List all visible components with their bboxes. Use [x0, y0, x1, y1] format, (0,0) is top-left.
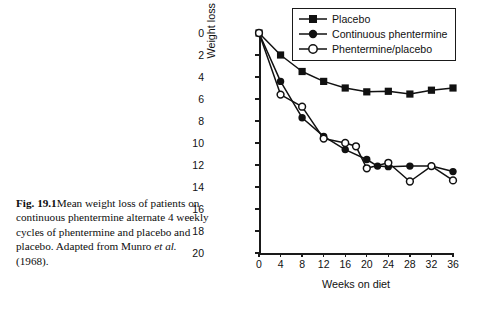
x-tick-label: 24	[376, 259, 400, 270]
data-point-filled-square	[299, 68, 306, 75]
legend-label-phentermine-placebo: Phentermine/placebo	[328, 44, 432, 55]
data-point-filled-square	[406, 90, 413, 97]
x-tick-mark	[258, 253, 259, 257]
plot-area: 0246810121416182004812162024283236	[259, 33, 453, 253]
data-point-open-circle	[256, 30, 263, 37]
data-point-open-circle	[320, 135, 327, 142]
y-tick-label: 8	[186, 116, 204, 127]
data-point-open-circle	[406, 178, 413, 185]
x-tick-mark	[345, 253, 346, 257]
y-tick-label: 6	[186, 94, 204, 105]
y-tick-label: 16	[186, 204, 204, 215]
figure-19-1: Fig. 19.1Mean weight loss of patients on…	[0, 0, 488, 309]
data-point-filled-square	[363, 88, 370, 95]
y-axis-title: Weight loss (kg)	[205, 0, 217, 78]
data-point-open-circle	[277, 91, 284, 98]
figure-number: Fig. 19.1	[16, 197, 57, 209]
legend-item-continuous-phentermine: Continuous phentermine	[298, 27, 447, 41]
y-tick-label: 10	[186, 138, 204, 149]
data-point-open-circle	[363, 165, 370, 172]
data-series-group	[259, 33, 453, 253]
x-tick-mark	[301, 253, 302, 257]
data-point-filled-circle	[406, 162, 413, 169]
x-tick-label: 0	[247, 259, 271, 270]
filled-square-marker-icon	[298, 12, 328, 26]
y-tick-label: 2	[186, 50, 204, 61]
y-tick-label: 14	[186, 182, 204, 193]
x-axis-title: Weeks on diet	[259, 278, 453, 290]
legend-item-phentermine-placebo: Phentermine/placebo	[298, 42, 447, 56]
x-tick-label: 32	[419, 259, 443, 270]
open-circle-marker-icon	[298, 42, 328, 56]
legend-label-placebo: Placebo	[328, 14, 370, 25]
data-point-open-circle	[385, 159, 392, 166]
data-point-filled-square	[449, 84, 456, 91]
x-tick-mark	[323, 253, 324, 257]
y-tick-label: 18	[186, 226, 204, 237]
data-point-filled-square	[277, 51, 284, 58]
y-tick-label: 12	[186, 160, 204, 171]
x-tick-label: 20	[355, 259, 379, 270]
x-tick-mark	[452, 253, 453, 257]
data-point-open-circle	[353, 143, 360, 150]
caption-et-al: et al.	[154, 240, 176, 252]
chart-legend: Placebo Continuous phentermine Phentermi…	[292, 8, 456, 61]
data-point-open-circle	[342, 140, 349, 147]
data-point-filled-circle	[449, 168, 456, 175]
x-tick-label: 36	[441, 259, 465, 270]
data-point-filled-square	[342, 84, 349, 91]
filled-circle-marker-icon	[298, 27, 328, 41]
y-tick-label: 0	[186, 28, 204, 39]
y-tick-label: 20	[186, 248, 204, 259]
x-tick-label: 8	[290, 259, 314, 270]
y-tick-label: 4	[186, 72, 204, 83]
data-point-filled-circle	[298, 114, 305, 121]
x-tick-label: 28	[398, 259, 422, 270]
data-point-filled-square	[385, 88, 392, 95]
data-point-filled-circle	[277, 78, 284, 85]
data-point-open-circle	[299, 103, 306, 110]
data-point-filled-square	[320, 78, 327, 85]
x-tick-label: 16	[333, 259, 357, 270]
data-point-open-circle	[450, 177, 457, 184]
x-tick-label: 12	[312, 259, 336, 270]
x-tick-mark	[388, 253, 389, 257]
x-tick-label: 4	[269, 259, 293, 270]
data-point-open-circle	[428, 163, 435, 170]
x-tick-mark	[431, 253, 432, 257]
x-tick-mark	[280, 253, 281, 257]
data-point-filled-square	[428, 87, 435, 94]
x-tick-mark	[409, 253, 410, 257]
legend-item-placebo: Placebo	[298, 12, 447, 26]
figure-caption: Fig. 19.1Mean weight loss of patients on…	[16, 196, 212, 268]
caption-text-part2: (1968).	[16, 255, 49, 267]
x-tick-mark	[366, 253, 367, 257]
legend-label-continuous-phentermine: Continuous phentermine	[328, 29, 447, 40]
x-axis-line	[259, 253, 453, 255]
